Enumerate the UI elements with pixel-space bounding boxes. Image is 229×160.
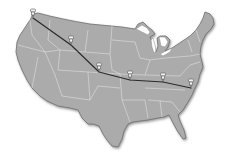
us-landmass (16, 12, 214, 147)
map-canvas (0, 0, 229, 160)
us-route-map: United States route map (0, 0, 229, 160)
